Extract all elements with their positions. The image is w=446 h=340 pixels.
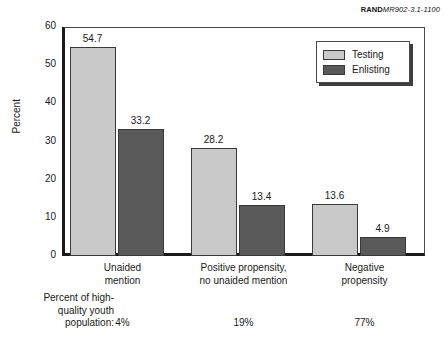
y-axis-tick-label: 20 [45,173,56,184]
chart-legend: TestingEnlisting [316,41,410,83]
bar-value-label: 33.2 [131,115,150,126]
source-credit-docid: MR902-3.1-1100 [383,5,440,14]
y-axis-tick-label: 30 [45,135,56,146]
footnote-value: 19% [183,317,304,328]
legend-item-enlisting[interactable]: Enlisting [323,62,402,77]
bar-group: 28.213.4 [183,27,304,256]
legend-label: Enlisting [352,64,390,75]
bar-enlisting [360,237,406,256]
bar-group: 54.733.2 [62,27,183,256]
bar-enlisting [118,129,164,256]
bar-testing [70,47,116,256]
bar-testing [312,204,358,256]
x-axis-category-label: Positive propensity,no unaided mention [183,262,304,287]
y-axis-tick-label: 60 [45,20,56,31]
footnote-label-line: Percent of high- [6,292,114,305]
y-axis-tick-label: 50 [45,58,56,69]
footnote-value: 77% [304,317,425,328]
bar-value-label: 54.7 [83,33,102,44]
source-credit-brand: RAND [361,5,383,14]
footnote-value: 4% [62,317,183,328]
y-axis-tick-label: 40 [45,96,56,107]
category-label-line: Unaided [62,262,183,275]
x-axis-category-label: Negativepropensity [304,262,425,287]
bar-value-label: 28.2 [204,134,223,145]
category-label-line: Positive propensity, [183,262,304,275]
y-axis-title: Percent [11,118,22,134]
source-credit: RANDMR902-3.1-1100 [361,5,440,14]
bar-value-label: 4.9 [376,223,390,234]
bar-testing [191,148,237,256]
legend-item-testing[interactable]: Testing [323,47,402,62]
legend-label: Testing [352,49,384,60]
category-label-line: Negative [304,262,425,275]
category-label-line: mention [62,275,183,288]
legend-swatch-icon [323,65,345,75]
footnote-label-line: quality youth [6,305,114,318]
bar-value-label: 13.4 [252,191,271,202]
category-label-line: propensity [304,275,425,288]
x-axis-category-label: Unaidedmention [62,262,183,287]
legend-swatch-icon [323,50,345,60]
bar-value-label: 13.6 [325,190,344,201]
chart-figure: RANDMR902-3.1-1100 Percent 0102030405060… [0,0,446,340]
y-axis-tick-label: 0 [50,249,56,260]
category-label-line: no unaided mention [183,275,304,288]
bar-enlisting [239,205,285,256]
y-axis-tick-label: 10 [45,211,56,222]
